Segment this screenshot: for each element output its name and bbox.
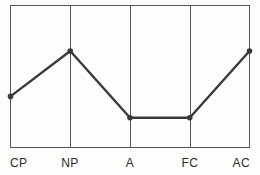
data-point-ac xyxy=(247,48,253,54)
data-point-fc xyxy=(187,115,193,121)
data-point-a xyxy=(127,115,133,121)
egogram-chart: CP NP A FC AC xyxy=(0,0,260,175)
chart-canvas: CP NP A FC AC xyxy=(0,0,260,175)
x-tick-label-fc: FC xyxy=(182,156,199,170)
x-tick-label-np: NP xyxy=(61,156,78,170)
x-tick-label-a: A xyxy=(126,156,134,170)
data-point-cp xyxy=(8,94,14,100)
x-tick-label-ac: AC xyxy=(233,156,250,170)
data-point-np xyxy=(67,48,73,54)
x-tick-label-cp: CP xyxy=(10,156,27,170)
